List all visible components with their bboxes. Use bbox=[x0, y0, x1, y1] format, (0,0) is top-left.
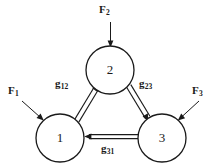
force-label-f1: F1 bbox=[8, 85, 18, 96]
force-flow-diagram: 1 2 3 F2 F1 F3 g12 g23 g31 bbox=[0, 0, 217, 165]
force-arrow-f1 bbox=[22, 101, 44, 120]
edge-arrow-g31 bbox=[84, 134, 138, 140]
force-label-f3: F3 bbox=[192, 85, 202, 96]
diagram-canvas: 1 2 3 bbox=[0, 0, 217, 165]
force-label-f3-symbol: F bbox=[192, 84, 199, 96]
edge-label-g23-symbol: g bbox=[139, 77, 145, 89]
edge-label-g31-symbol: g bbox=[101, 142, 107, 154]
node-label-2: 2 bbox=[107, 62, 114, 77]
force-label-f2-subscript: 2 bbox=[106, 8, 110, 17]
force-label-f2: F2 bbox=[99, 4, 109, 15]
edge-label-g23-subscript: 23 bbox=[145, 82, 153, 91]
edge-label-g31-subscript: 31 bbox=[107, 147, 115, 156]
force-label-f3-subscript: 3 bbox=[199, 89, 203, 98]
edge-label-g31: g31 bbox=[101, 143, 114, 154]
force-arrow-f3 bbox=[178, 101, 199, 120]
node-label-3: 3 bbox=[159, 130, 166, 145]
node-label-1: 1 bbox=[57, 130, 64, 145]
force-label-f1-subscript: 1 bbox=[15, 89, 19, 98]
edge-arrow-g12 bbox=[75, 86, 100, 123]
edge-label-g12-symbol: g bbox=[55, 77, 61, 89]
edge-label-g12: g12 bbox=[55, 78, 68, 89]
force-label-f2-symbol: F bbox=[99, 3, 106, 15]
edge-label-g23: g23 bbox=[139, 78, 152, 89]
force-arrow-f2 bbox=[108, 22, 114, 48]
edge-label-g12-subscript: 12 bbox=[61, 82, 69, 91]
force-label-f1-symbol: F bbox=[8, 84, 15, 96]
